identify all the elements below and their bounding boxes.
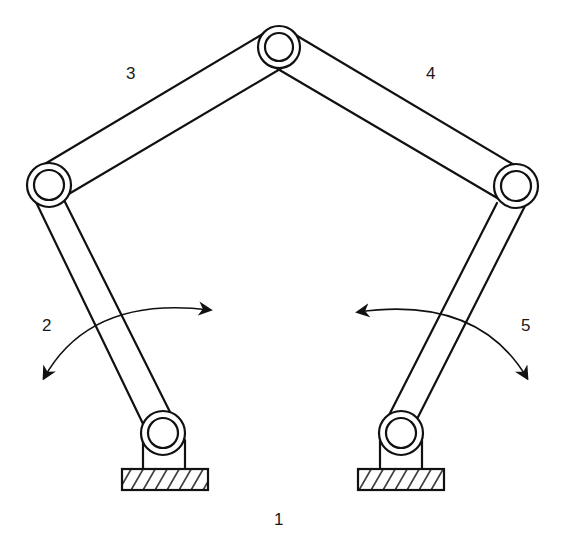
rotation-arrow-left <box>44 308 210 378</box>
link-2-bar <box>34 198 176 430</box>
label-link-2: 2 <box>42 316 51 336</box>
link-3-bar <box>38 32 292 198</box>
link-4-bar <box>266 34 526 202</box>
joint-left <box>27 163 71 207</box>
joint-base-left <box>141 411 185 455</box>
ground-right <box>358 469 444 490</box>
label-link-4: 4 <box>426 64 435 84</box>
joint-base-right <box>379 411 423 455</box>
ground-left <box>122 469 208 490</box>
label-link-3: 3 <box>126 64 135 84</box>
link-5-bar <box>384 200 528 425</box>
label-link-1: 1 <box>274 510 283 530</box>
joint-top <box>258 26 300 68</box>
label-link-5: 5 <box>521 316 530 336</box>
linkage-diagram <box>0 0 563 540</box>
joint-right <box>494 164 538 208</box>
